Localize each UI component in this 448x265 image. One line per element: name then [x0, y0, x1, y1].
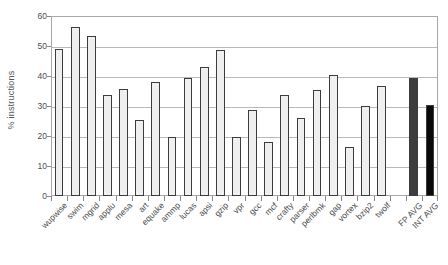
x-axis-tick-label: mesa [113, 201, 134, 222]
y-axis-tick-mark [47, 136, 51, 137]
x-axis-tick-label: twolf [373, 201, 391, 219]
bar [280, 95, 289, 196]
bar [151, 82, 160, 196]
bar [264, 142, 273, 196]
bar [87, 36, 96, 197]
bar [71, 27, 80, 197]
bar [361, 106, 370, 196]
y-axis-title-label: % instructions [6, 71, 16, 130]
x-axis-tick-label: bzip2 [355, 201, 375, 221]
bar [377, 86, 386, 196]
y-axis-tick-mark [47, 166, 51, 167]
bar [426, 105, 435, 196]
bar [345, 147, 354, 197]
bar [119, 89, 128, 196]
bar [313, 90, 322, 196]
bar [329, 75, 338, 196]
x-axis-tick-labels: wupwiseswimmgridapplumesaartequakeammplu… [51, 201, 448, 265]
bar-chart: % instructions 0102030405060 wupwiseswim… [0, 0, 448, 265]
y-axis-tick-label: 60 [27, 12, 47, 21]
y-axis-tick-mark [47, 106, 51, 107]
y-axis-tick-label: 10 [27, 162, 47, 171]
x-axis-tick-label: gzip [213, 201, 230, 218]
bar [200, 67, 209, 196]
bar [297, 118, 306, 196]
x-axis-tick-label: apsi [197, 201, 214, 218]
y-axis-tick-label: 0 [27, 192, 47, 201]
bar [216, 50, 225, 196]
bar [103, 95, 112, 196]
y-axis-tick-label: 20 [27, 132, 47, 141]
bars-container [51, 16, 438, 196]
y-axis-title: % instructions [0, 0, 22, 200]
bar [168, 137, 177, 196]
y-axis-tick-mark [47, 76, 51, 77]
x-axis-tick-label: wupwise [40, 201, 69, 230]
y-axis-tick-label: 50 [27, 42, 47, 51]
y-axis-tick-labels: 0102030405060 [22, 16, 47, 196]
x-axis-tick-label: vpr [232, 201, 246, 215]
bar [55, 49, 64, 196]
bar [232, 137, 241, 196]
bar [135, 120, 144, 196]
bar [248, 110, 257, 196]
y-axis-tick-mark [47, 196, 51, 197]
y-axis-tick-label: 40 [27, 72, 47, 81]
bar [409, 78, 418, 196]
x-axis-tick-label: gcc [247, 201, 262, 216]
y-axis-tick-label: 30 [27, 102, 47, 111]
y-axis-tick-mark [47, 46, 51, 47]
y-axis-tick-mark [47, 16, 51, 17]
bar [184, 78, 193, 197]
